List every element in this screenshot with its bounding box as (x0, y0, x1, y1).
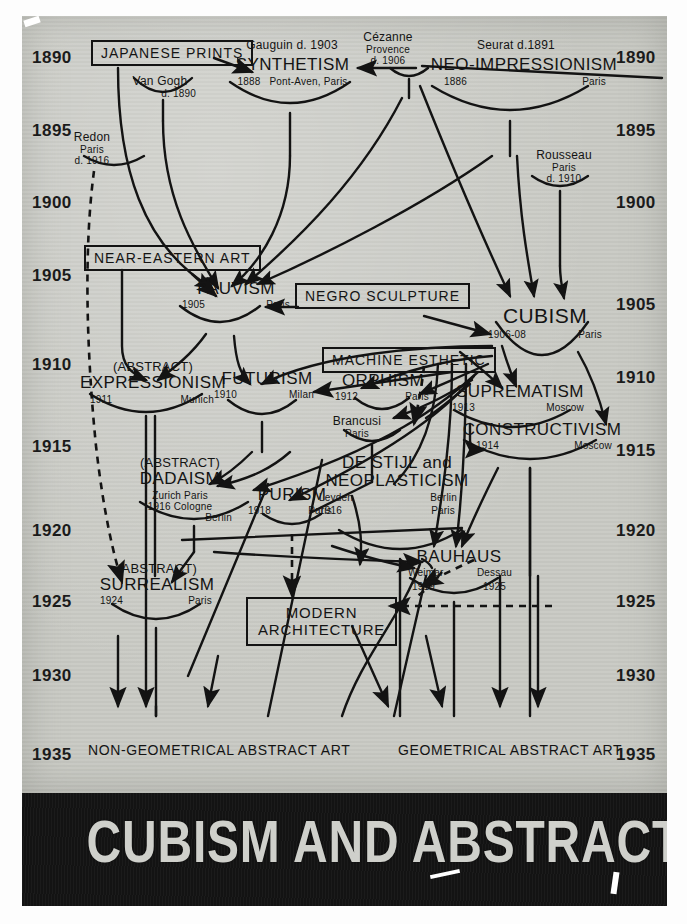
expressionism-meta: 1911 Munich (78, 394, 228, 408)
year-right-1895: 1895 (616, 121, 656, 141)
dadaism-places-1: Zurich Paris (120, 490, 240, 501)
synthetism-title: SYNTHETISM (210, 56, 375, 74)
futurism-title: FUTURISM (208, 370, 326, 388)
constructivism-place: Moscow (574, 440, 612, 451)
orphism-date: 1912 (335, 391, 358, 402)
synthetism-date: 1888 (237, 76, 260, 87)
de-stijl-paris: Paris (431, 505, 455, 516)
futurism-date: 1910 (214, 389, 237, 400)
neo-impressionism-date: 1886 (444, 76, 467, 87)
purism-date: 1918 (248, 505, 271, 516)
fauvism-place: Paris (266, 299, 290, 310)
node-redon[interactable]: Redon Paris d. 1916 (56, 130, 128, 166)
node-constructivism[interactable]: CONSTRUCTIVISM 1914 Moscow (462, 421, 622, 454)
edge-cezanne-fauvism (246, 98, 402, 284)
edge-dadaism-bauhaus (214, 552, 422, 562)
redon-death: d. 1916 (56, 155, 128, 166)
node-dadaism[interactable]: (ABSTRACT) DADAISM Zurich Paris 1916 Col… (120, 455, 240, 523)
node-de-stijl[interactable]: DE STIJL and NEOPLASTICISM Leyden 1916 B… (317, 454, 477, 518)
surrealism-date: 1924 (100, 595, 123, 606)
year-left-1930: 1930 (32, 666, 72, 686)
node-expressionism[interactable]: (ABSTRACT) EXPRESSIONISM 1911 Munich (78, 359, 228, 408)
surrealism-place: Paris (188, 595, 212, 606)
dadaism-qualifier: (ABSTRACT) (120, 455, 240, 470)
year-right-1925: 1925 (616, 592, 656, 612)
bauhaus-1925: 1925 (483, 581, 506, 592)
year-right-1920: 1920 (616, 521, 656, 541)
constructivism-meta: 1914 Moscow (462, 440, 622, 454)
de-stijl-meta: Leyden 1916 Berlin Paris (317, 492, 477, 518)
dadaism-title: DADAISM (120, 470, 240, 488)
year-left-1905: 1905 (32, 266, 72, 286)
node-synthetism[interactable]: SYNTHETISM 1888 Pont-Aven, Paris (210, 56, 375, 87)
constructivism-title: CONSTRUCTIVISM (462, 421, 622, 439)
node-machine-esthetic[interactable]: MACHINE ESTHETIC (322, 347, 496, 373)
orphism-title: ORPHISM (333, 372, 433, 390)
year-left-1915: 1915 (32, 437, 72, 457)
node-futurism[interactable]: FUTURISM 1910 Milan (208, 370, 326, 403)
suprematism-title: SUPREMATISM (450, 383, 590, 401)
redon-place: Paris (56, 144, 128, 155)
rousseau-death: d. 1910 (524, 173, 604, 184)
node-negro-sculpture[interactable]: NEGRO SCULPTURE (295, 283, 470, 309)
node-orphism[interactable]: ORPHISM 1912 Paris (333, 372, 433, 405)
cezanne-name: Cézanne (352, 30, 424, 44)
edge-cezanne-cubism (420, 86, 510, 296)
poster-root: 1890 1895 1900 1905 1910 1915 1920 1925 … (0, 0, 687, 924)
expressionism-date: 1911 (90, 394, 112, 405)
van-gogh-death: d. 1890 (120, 88, 200, 99)
edge-cubism-suprematism (502, 346, 516, 386)
year-left-1935: 1935 (32, 745, 72, 765)
node-seurat[interactable]: Seurat d.1891 (456, 38, 576, 52)
redon-name: Redon (56, 130, 128, 144)
cezanne-death: d. 1906 (352, 55, 424, 66)
node-surrealism[interactable]: (ABSTRACT) SURREALISM 1924 Paris (92, 561, 222, 609)
node-gauguin[interactable]: Gauguin d. 1903 (227, 38, 357, 52)
bauhaus-title: BAUHAUS (404, 548, 514, 566)
neo-impressionism-title: NEO-IMPRESSIONISM (426, 56, 622, 74)
node-brancusi[interactable]: Brancusi Paris (318, 414, 396, 439)
suprematism-meta: 1913 Moscow (450, 402, 590, 416)
bauhaus-1919: 1919 (412, 581, 435, 592)
de-stijl-berlin: Berlin (430, 492, 457, 503)
de-stijl-line2: NEOPLASTICISM (317, 472, 477, 490)
edge-geom2 (426, 636, 442, 706)
year-left-1890: 1890 (32, 48, 72, 68)
rousseau-name: Rousseau (524, 148, 604, 162)
node-near-eastern-art[interactable]: NEAR-EASTERN ART (84, 245, 261, 271)
bauhaus-dates: 1919 1925 (404, 581, 514, 595)
surrealism-qualifier: (ABSTRACT) (92, 561, 222, 576)
edge-out-nongeom2 (208, 656, 218, 706)
gauguin-name: Gauguin d. 1903 (227, 38, 357, 52)
node-rousseau[interactable]: Rousseau Paris d. 1910 (524, 148, 604, 184)
orphism-meta: 1912 Paris (333, 391, 433, 405)
edge-rousseau-cubism (560, 266, 564, 298)
year-left-1910: 1910 (32, 355, 72, 375)
seurat-name: Seurat d.1891 (456, 38, 576, 52)
synthetism-place: Pont-Aven, Paris (269, 76, 347, 87)
surrealism-meta: 1924 Paris (92, 595, 222, 609)
outcome-non-geometrical-abstract-art[interactable]: NON-GEOMETRICAL ABSTRACT ART (88, 742, 350, 758)
fauvism-meta: 1905 Paris (176, 299, 296, 313)
node-cubism[interactable]: CUBISM 1906-08 Paris (480, 305, 610, 343)
fauvism-date: 1905 (182, 299, 205, 310)
bauhaus-places: Weimar Dessau (404, 567, 514, 581)
year-right-1905: 1905 (616, 295, 656, 315)
outcome-geometrical-abstract-art[interactable]: GEOMETRICAL ABSTRACT ART (398, 742, 622, 758)
node-fauvism[interactable]: FAUVISM 1905 Paris (176, 280, 296, 313)
bauhaus-dessau: Dessau (477, 567, 512, 578)
modern-architecture-line2: ARCHITECTURE (258, 621, 385, 638)
brancusi-name: Brancusi (318, 414, 396, 428)
edge-long-horizontal (182, 528, 462, 540)
node-cezanne[interactable]: Cézanne Provence d. 1906 (352, 30, 424, 66)
node-suprematism[interactable]: SUPREMATISM 1913 Moscow (450, 383, 590, 416)
expressionism-title: EXPRESSIONISM (78, 374, 228, 392)
poster-title: CUBISM AND ABSTRACT ART (87, 807, 603, 876)
fauvism-title: FAUVISM (176, 280, 296, 298)
node-bauhaus[interactable]: BAUHAUS Weimar Dessau 1919 1925 (404, 548, 514, 595)
node-van-gogh[interactable]: Van Gogh d. 1890 (120, 74, 200, 99)
de-stijl-leyden: Leyden (319, 492, 353, 503)
node-modern-architecture[interactable]: MODERN ARCHITECTURE (246, 597, 397, 646)
year-right-1900: 1900 (616, 193, 656, 213)
node-neo-impressionism[interactable]: NEO-IMPRESSIONISM 1886 Paris (426, 56, 622, 90)
